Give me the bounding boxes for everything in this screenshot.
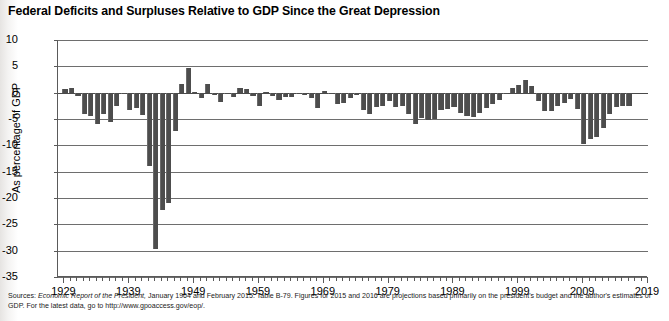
x-axis-tick-minor xyxy=(83,277,84,281)
chart-bar xyxy=(607,93,612,115)
x-axis-tick-minor xyxy=(109,277,110,281)
chart-bar xyxy=(95,93,100,124)
x-axis-tick-minor xyxy=(414,277,415,281)
chart-bar xyxy=(464,93,469,117)
x-axis-tick-minor xyxy=(226,277,227,281)
x-axis-tick-minor xyxy=(407,277,408,281)
x-axis-tick-major xyxy=(323,277,324,283)
source-publication: Economic Report of the President, xyxy=(38,292,146,300)
chart-bar xyxy=(212,93,217,95)
y-axis-tick xyxy=(54,172,58,173)
chart-bar xyxy=(361,93,366,110)
chart-bar xyxy=(380,93,385,107)
x-axis-tick-minor xyxy=(297,277,298,281)
x-axis-tick-minor xyxy=(342,277,343,281)
chart-bar xyxy=(575,93,580,109)
chart-bar xyxy=(237,88,242,93)
chart-bar xyxy=(477,93,482,114)
x-axis-tick-minor xyxy=(465,277,466,281)
x-axis-tick-minor xyxy=(135,277,136,281)
chart-bar xyxy=(231,93,236,97)
chart-bar xyxy=(166,93,171,204)
x-axis-tick-minor xyxy=(375,277,376,281)
x-axis-tick-minor xyxy=(440,277,441,281)
chart-bar xyxy=(199,93,204,99)
chart-bar xyxy=(263,92,268,93)
y-axis-tick-label: -5 xyxy=(0,112,18,124)
x-axis-tick-major xyxy=(388,277,389,283)
chart-bar xyxy=(458,93,463,114)
chart-bar xyxy=(581,93,586,145)
chart-bar xyxy=(594,93,599,137)
chart-bar xyxy=(108,93,113,122)
y-axis-tick-label: -10 xyxy=(0,138,18,150)
chart-bar xyxy=(432,93,437,119)
chart-bar xyxy=(484,93,489,108)
chart-bar xyxy=(445,93,450,109)
chart-bar xyxy=(620,93,625,106)
chart-bar xyxy=(601,93,606,129)
chart-bar xyxy=(270,93,275,96)
chart-bar xyxy=(562,93,567,103)
x-axis-tick-minor xyxy=(310,277,311,281)
x-axis-tick-minor xyxy=(394,277,395,281)
chart-bar xyxy=(529,86,534,93)
chart-bar xyxy=(121,93,126,94)
x-axis-tick-minor xyxy=(427,277,428,281)
y-axis-tick xyxy=(54,251,58,252)
chart-bar xyxy=(296,93,301,94)
y-axis-tick-label: 5 xyxy=(0,59,18,71)
y-axis-tick xyxy=(54,40,58,41)
x-axis-tick-minor xyxy=(167,277,168,281)
x-axis-tick-minor xyxy=(264,277,265,281)
x-axis-tick-minor xyxy=(252,277,253,281)
x-axis-tick-minor xyxy=(433,277,434,281)
chart-bar xyxy=(101,93,106,114)
chart-bar xyxy=(438,93,443,110)
x-axis-tick-minor xyxy=(368,277,369,281)
chart-bar xyxy=(244,89,249,93)
x-axis-tick-minor xyxy=(524,277,525,281)
chart-bar xyxy=(367,93,372,115)
x-axis-tick-minor xyxy=(381,277,382,281)
chart-bar xyxy=(549,93,554,111)
x-axis-tick-minor xyxy=(543,277,544,281)
chart-bar xyxy=(497,93,502,100)
chart-bar xyxy=(510,88,515,92)
chart-bar xyxy=(69,88,74,92)
x-axis-tick-major xyxy=(258,277,259,283)
gridline xyxy=(58,40,648,41)
x-axis-tick-minor xyxy=(355,277,356,281)
chart-bar xyxy=(419,93,424,118)
chart-bar xyxy=(302,93,307,96)
x-axis-tick-minor xyxy=(556,277,557,281)
gridline xyxy=(58,251,648,252)
chart-bar xyxy=(257,93,262,107)
chart-bar xyxy=(354,93,359,95)
x-axis-tick-major xyxy=(582,277,583,283)
x-axis-tick-minor xyxy=(349,277,350,281)
chart-bar xyxy=(276,93,281,100)
chart-bar xyxy=(186,68,191,92)
x-axis-tick-major xyxy=(452,277,453,283)
y-axis-tick xyxy=(54,224,58,225)
chart-bar xyxy=(413,93,418,125)
x-axis-tick-minor xyxy=(303,277,304,281)
chart-bar xyxy=(289,93,294,98)
x-axis-tick-minor xyxy=(154,277,155,281)
chart-bar xyxy=(62,89,67,93)
chart-bar xyxy=(490,93,495,105)
x-axis-tick-minor xyxy=(187,277,188,281)
x-axis-tick-minor xyxy=(446,277,447,281)
chart-bar xyxy=(134,93,139,109)
x-axis-tick-major xyxy=(128,277,129,283)
x-axis-tick-minor xyxy=(589,277,590,281)
chart-bar xyxy=(523,80,528,93)
gridline xyxy=(58,198,648,199)
source-lead: Sources: xyxy=(8,292,36,300)
chart-bar xyxy=(224,93,229,95)
chart-bar xyxy=(173,93,178,131)
y-axis-tick xyxy=(54,66,58,67)
y-axis-tick xyxy=(54,119,58,120)
chart-bar xyxy=(127,93,132,110)
